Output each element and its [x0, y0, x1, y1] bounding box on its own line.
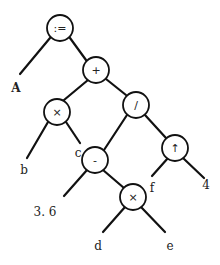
tree-edge: [64, 80, 88, 100]
tree-edge: [64, 170, 87, 196]
tree-edge: [103, 170, 124, 188]
operator-node-times2: ×: [120, 184, 146, 210]
operator-label: /: [134, 99, 138, 112]
leaf-label-d: d: [94, 239, 102, 253]
operator-label: -: [93, 154, 97, 167]
operator-node-times1: ×: [44, 99, 70, 125]
operator-node-plus: +: [83, 57, 109, 83]
tree-edge: [104, 115, 127, 150]
tree-edge: [70, 38, 86, 60]
tree-edge: [183, 158, 204, 178]
tree-edge: [103, 207, 125, 232]
leaf-label-A: A: [10, 81, 21, 95]
operator-node-power: ↑: [162, 135, 188, 161]
operator-label: ×: [128, 191, 137, 204]
leaf-label-e: e: [166, 239, 173, 253]
tree-edge: [20, 38, 50, 74]
tree-edge: [152, 158, 168, 176]
leaf-label-c: c: [75, 146, 82, 160]
operator-label: ×: [52, 106, 61, 119]
operator-label: ↑: [170, 142, 179, 155]
operator-label: +: [91, 64, 100, 77]
leaf-label-f: f: [150, 181, 156, 195]
tree-edge: [66, 122, 80, 143]
operator-node-minus: -: [82, 147, 108, 173]
leaf-label-n36: 3. 6: [34, 205, 57, 219]
leaf-label-n4: 4: [202, 178, 210, 192]
expression-tree-diagram: :=+×/-↑× Abc3. 6def4: [0, 0, 220, 265]
leaf-label-b: b: [20, 163, 28, 177]
tree-leaf-labels: Abc3. 6def4: [10, 81, 210, 253]
operator-label: :=: [54, 22, 67, 35]
operator-node-divide: /: [123, 92, 149, 118]
operator-node-assign: :=: [47, 15, 73, 41]
tree-edge: [27, 122, 48, 158]
tree-edge: [145, 115, 166, 138]
tree-edge: [141, 207, 165, 232]
tree-edge: [106, 79, 126, 95]
